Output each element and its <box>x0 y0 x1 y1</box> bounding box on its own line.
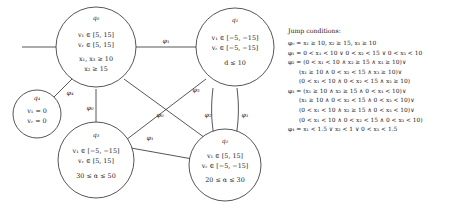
edge-label-q3-q2-cross: φ₀ <box>156 111 163 119</box>
edge-label-q2-q1-right: φ₁ <box>241 111 248 119</box>
legend-phi3-line1: φ₃ = (x₁ ≥ 10 ∧ x₂ ≥ 15 ∧ 0 < x₃ < 10)∨ <box>288 87 464 97</box>
hybrid-automaton-figure: q₀ v₁ ∈ [5, 15] vᵣ ∈ [5, 15] x₁, x₃ ≥ 10… <box>0 0 464 211</box>
node-q2-line2: vᵣ ∈ [−5, −15] <box>201 162 249 170</box>
node-q2-id: q₂ <box>222 137 229 145</box>
legend-phi2-line3: (0 < x₁ < 10 ∧ 0 < x₂ < 15 ∧ x₃ ≥ 10) <box>288 77 464 87</box>
node-q3-line1: v₁ ∈ [−5, −15] <box>72 147 120 155</box>
node-q0[interactable]: q₀ v₁ ∈ [5, 15] vᵣ ∈ [5, 15] x₁, x₃ ≥ 10… <box>56 7 136 87</box>
edge-q2-q1-right <box>236 88 238 136</box>
node-q4-line2: vᵣ = 0 <box>26 117 46 125</box>
legend-phi1-line1: φ₁ = 0 < x₁ < 10 ∨ 0 < x₂ < 15 ∨ 0 < x₃ … <box>288 49 464 59</box>
node-q0-line4: x₂ ≥ 15 <box>84 65 108 73</box>
node-q1-line3: d ≤ 10 <box>224 59 246 67</box>
edge-label-q0-q4: φ₄ <box>66 89 73 97</box>
node-q4[interactable]: q₄ v₁ = 0 vᵣ = 0 <box>13 90 61 138</box>
node-q4-line1: v₁ = 0 <box>26 107 47 115</box>
node-q0-line2: vᵣ ∈ [5, 15] <box>77 41 114 49</box>
node-q3-line3: 30 ≤ α ≤ 50 <box>76 172 115 180</box>
node-q2-line3: 20 ≤ α ≤ 30 <box>205 176 244 184</box>
node-q3-id: q₃ <box>93 131 100 139</box>
node-q0-line3: x₁, x₃ ≥ 10 <box>79 55 113 63</box>
node-q1-line1: v₁ ∈ [−5, −15] <box>211 34 259 42</box>
node-q4-id: q₄ <box>34 94 41 102</box>
jump-conditions-legend: Jump conditions: φ₀ = x₁ ≥ 10, x₂ ≥ 15, … <box>288 26 464 135</box>
node-q1-line2: vᵣ ∈ [−5, −15] <box>211 44 259 52</box>
edge-label-q2-q1-left: φ₂ <box>204 111 211 119</box>
node-q2[interactable]: q₂ v₁ ∈ [5, 15] vᵣ ∈ [−5, −15] 20 ≤ α ≤ … <box>189 129 261 201</box>
node-q3[interactable]: q₃ v₁ ∈ [−5, −15] vᵣ ∈ [5, 15] 30 ≤ α ≤ … <box>58 122 134 198</box>
legend-phi3-line4: (0 < x₁ < 10 ∧ 0 < x₂ < 15 ∧ 0 < x₃ < 10… <box>288 116 464 126</box>
node-q2-line1: v₁ ∈ [5, 15] <box>206 152 243 160</box>
node-q0-id: q₀ <box>93 14 100 22</box>
edge-q2-q1-left <box>212 88 214 136</box>
legend-phi0-line1: φ₀ = x₁ ≥ 10, x₂ ≥ 15, x₃ ≥ 10 <box>288 39 464 49</box>
node-q1[interactable]: q₁ v₁ ∈ [−5, −15] vᵣ ∈ [−5, −15] d ≤ 10 <box>196 8 274 86</box>
edge-q3-q2 <box>131 148 198 160</box>
legend-title: Jump conditions: <box>288 26 464 36</box>
edge-label-q1-q3: φ₃ <box>192 86 199 94</box>
edge-label-q0-q1: φ₁ <box>162 37 169 45</box>
edge-label-q0-q3: φ₀ <box>86 104 93 112</box>
node-q3-line2: vᵣ ∈ [5, 15] <box>77 157 114 165</box>
legend-phi3-line3: (0 < x₁ < 10 ∧ x₂ ≥ 15 ∧ 0 < x₃ < 10)∨ <box>288 106 464 116</box>
legend-phi4-line1: φ₄ = x₁ < 1.5 ∨ x₂ < 1 ∨ 0 < x₃ < 1.5 <box>288 125 464 135</box>
node-q1-id: q₁ <box>232 16 238 24</box>
legend-phi2-line2: (x₁ ≥ 10 ∧ 0 < x₂ < 15 ∧ x₃ ≥ 10)∨ <box>288 68 464 78</box>
node-q0-line1: v₁ ∈ [5, 15] <box>77 31 114 39</box>
legend-phi3-line2: (x₁ ≥ 10 ∧ 0 < x₂ < 15 ∧ 0 < x₃ < 10)∨ <box>288 96 464 106</box>
legend-phi2-line1: φ₂ = (0 < x₁ < 10 ∧ x₂ ≥ 15 ∧ x₃ ≥ 10)∨ <box>288 58 464 68</box>
edge-label-q0-q2: φ₁ <box>146 134 153 142</box>
